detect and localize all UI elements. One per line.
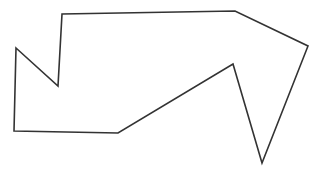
- drawing-canvas: [0, 0, 323, 173]
- polygon-shape-svg: [0, 0, 323, 173]
- irregular-polygon-outline: [14, 11, 308, 163]
